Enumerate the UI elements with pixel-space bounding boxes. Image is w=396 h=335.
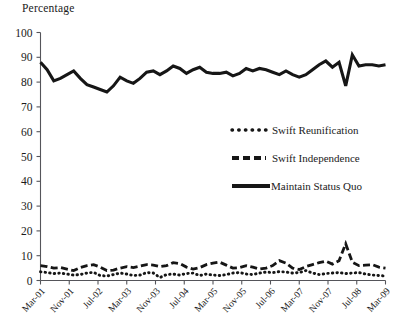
x-tick-label: Mar-07 <box>278 285 306 314</box>
x-axis-ticks <box>41 281 386 285</box>
x-axis-labels: Mar-01Nov-01Jul-02Mar-03Nov-03Jul-04Mar-… <box>19 285 392 314</box>
y-tick-label: 60 <box>21 126 33 138</box>
y-tick-label: 80 <box>21 76 33 88</box>
y-tick-label: 50 <box>21 151 33 163</box>
x-tick-label: Mar-05 <box>192 285 220 314</box>
chart-plot: 0102030405060708090100 Mar-01Nov-01Jul-0… <box>0 0 396 335</box>
y-tick-label: 30 <box>21 200 33 212</box>
chart-legend: Swift ReunificationSwift IndependenceMai… <box>232 124 363 192</box>
legend-label: Swift Reunification <box>272 124 359 136</box>
x-tick-label: Jul-06 <box>253 285 278 310</box>
x-tick-label: Nov-01 <box>48 285 76 314</box>
y-tick-label: 20 <box>21 225 33 237</box>
legend-label: Swift Independence <box>272 152 360 164</box>
y-tick-label: 0 <box>27 275 33 287</box>
series-line-dotted <box>41 271 386 278</box>
y-tick-label: 10 <box>21 250 33 262</box>
x-tick-label: Mar-09 <box>364 285 392 314</box>
y-tick-label: 40 <box>21 175 33 187</box>
chart-container: Percentage 0102030405060708090100 Mar-01… <box>0 0 396 335</box>
y-tick-label: 100 <box>15 27 33 39</box>
x-tick-label: Nov-03 <box>134 285 162 314</box>
y-axis-ticks: 0102030405060708090100 <box>15 27 40 287</box>
legend-label: Maintain Status Quo <box>271 180 363 192</box>
y-tick-label: 70 <box>21 101 33 113</box>
x-tick-label: Nov-07 <box>306 285 334 314</box>
x-tick-label: Jul-04 <box>166 285 191 310</box>
x-tick-label: Jul-02 <box>80 285 105 310</box>
series-line-solid <box>41 55 386 92</box>
x-tick-label: Mar-01 <box>19 285 47 314</box>
y-tick-label: 90 <box>21 51 33 63</box>
data-series-group <box>41 55 386 278</box>
series-line-dashed <box>41 244 386 271</box>
x-tick-label: Nov-05 <box>220 285 248 314</box>
x-tick-label: Jul-08 <box>339 285 364 310</box>
x-tick-label: Mar-03 <box>106 285 134 314</box>
